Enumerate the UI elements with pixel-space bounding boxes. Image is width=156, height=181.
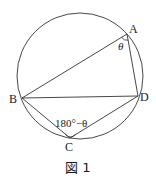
- point-label-b: B: [9, 92, 17, 106]
- point-label-d: D: [140, 90, 149, 104]
- figure-caption: 図 1: [65, 160, 90, 175]
- segment-ad: [127, 34, 138, 96]
- segment-ab: [22, 34, 127, 98]
- segment-bd: [22, 96, 138, 98]
- point-label-a: A: [129, 22, 138, 36]
- angle-label-c: 180°−θ: [55, 117, 87, 129]
- angle-label-theta: θ: [118, 40, 124, 52]
- point-label-c: C: [65, 140, 73, 154]
- cyclic-quadrilateral-figure: A B C D θ 180°−θ 図 1: [0, 0, 156, 181]
